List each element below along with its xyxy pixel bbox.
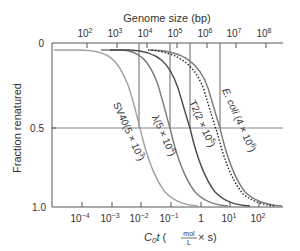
y-axis-title: Fraction renatured bbox=[11, 83, 23, 173]
bottom-tick-label: 101 bbox=[221, 212, 236, 224]
svg-text:C0t (: C0t ( bbox=[144, 231, 167, 245]
bottom-tick-label: 10−3 bbox=[100, 212, 119, 224]
bottom-tick-label: 10−4 bbox=[70, 212, 89, 224]
bottom-tick-label: 102 bbox=[250, 212, 265, 224]
label-lambda: λ(5 × 104) bbox=[150, 113, 179, 158]
x-unit-numerator: mol bbox=[183, 230, 195, 237]
top-tick-label: 106 bbox=[197, 27, 212, 39]
top-axis-title: Genome size (bp) bbox=[123, 12, 210, 24]
y-tick-label-1: 1.0 bbox=[32, 202, 46, 213]
y-tick-label-0: 0 bbox=[38, 38, 44, 49]
label-ecoli: E. coli (4 × 106) bbox=[220, 86, 259, 154]
bottom-tick-labels: 10−4 10−3 10−2 10−1 1 101 102 bbox=[70, 212, 265, 224]
x-unit-denominator: L bbox=[187, 239, 191, 246]
bottom-tick-label: 10−2 bbox=[129, 212, 148, 224]
label-sv40: SV40(5 × 103) bbox=[111, 100, 148, 163]
top-tick-label: 107 bbox=[226, 27, 241, 39]
x-unit-tail: × s) bbox=[198, 231, 217, 243]
top-tick-label: 102 bbox=[77, 27, 92, 39]
top-tick-label: 105 bbox=[167, 27, 182, 39]
top-tick-label: 108 bbox=[256, 27, 271, 39]
cot-curve-chart: Genome size (bp) 102 103 104 105 106 107… bbox=[0, 0, 300, 251]
top-ticks bbox=[87, 43, 266, 48]
x-axis-title: C0t ( mol L × s) bbox=[144, 230, 217, 246]
top-tick-label: 104 bbox=[137, 27, 152, 39]
top-tick-labels: 102 103 104 105 106 107 108 bbox=[77, 27, 271, 39]
bottom-tick-label: 10−1 bbox=[159, 212, 178, 224]
bottom-tick-label: 1 bbox=[198, 213, 204, 224]
y-tick-label-05: 0.5 bbox=[30, 123, 44, 134]
y-tick-labels: 0 0.5 1.0 bbox=[30, 38, 46, 213]
top-tick-label: 103 bbox=[107, 27, 122, 39]
